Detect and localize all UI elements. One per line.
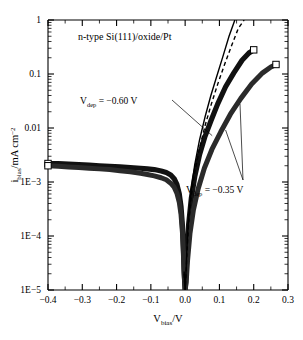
iv-curve-chart: 10.10.011E−31E−41E−5 −0.4−0.3−0.2−0.10.0…: [0, 0, 303, 340]
y-tick-label: 0.1: [29, 69, 41, 79]
x-tick-label: −0.4: [39, 295, 56, 305]
series-endpoint-marker: [273, 61, 279, 67]
plot-title: n-type Si(111)/oxide/Pt: [78, 31, 172, 43]
figure-container: 10.10.011E−31E−41E−5 −0.4−0.3−0.2−0.10.0…: [0, 0, 303, 340]
y-tick-label: 1: [36, 15, 41, 25]
x-tick-label: 0.0: [179, 295, 191, 305]
y-tick-label: 1E−3: [20, 177, 41, 187]
x-tick-label: 0.2: [248, 295, 260, 305]
series-endpoint-marker: [251, 47, 257, 53]
x-tick-label: −0.3: [74, 295, 91, 305]
x-tick-label: 0.1: [213, 295, 225, 305]
x-tick-label: 0.3: [282, 295, 294, 305]
x-tick-label: −0.2: [108, 295, 125, 305]
y-tick-label: 1E−4: [20, 231, 41, 241]
y-tick-label: 0.01: [24, 123, 41, 133]
y-tick-label: 1E−5: [20, 285, 41, 295]
x-tick-label: −0.1: [142, 295, 159, 305]
series-endpoint-marker: [45, 163, 51, 169]
